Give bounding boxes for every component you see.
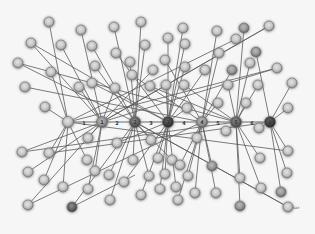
node [57,181,69,193]
node [22,166,34,178]
node [82,183,94,195]
node [211,25,223,37]
link-label: 5 [216,120,220,126]
node [234,172,246,184]
node [109,82,121,94]
node [144,80,156,92]
node [126,69,138,81]
node [181,102,193,114]
node [139,39,151,51]
node [160,79,172,91]
node [206,160,218,172]
node [271,62,283,74]
node [82,132,94,144]
node [89,165,101,177]
node [55,39,67,51]
node [179,38,191,50]
node [75,24,87,36]
node [22,199,34,211]
hub-label: 3 [166,119,170,125]
node [255,182,267,194]
hub-label: 1 [100,119,104,125]
node [254,152,266,164]
node [43,16,55,28]
corner-mark: GAP [293,206,299,210]
node [145,134,157,146]
node [135,189,147,201]
node [162,32,174,44]
node [234,200,246,212]
node [212,97,224,109]
link-label: 6 [250,120,254,126]
node [281,167,293,179]
node [108,21,120,33]
node [154,183,166,195]
hub-node [61,116,74,129]
hub-label: 6 [268,119,272,125]
node [86,40,98,52]
node [135,16,147,28]
node [110,47,122,59]
node [174,159,186,171]
edge [270,122,281,192]
hub-label: 2 [133,119,137,125]
node [213,47,225,59]
node [222,79,234,91]
edge [236,63,250,122]
node [39,101,51,113]
node [19,81,31,93]
node [147,64,159,76]
node [189,187,201,199]
node [143,170,155,182]
node [238,22,250,34]
node [104,194,116,206]
link-label: 2 [115,120,119,126]
node [240,97,252,109]
node [118,176,130,188]
node [81,154,93,166]
node [282,102,294,114]
edge [68,68,277,122]
node [89,60,101,72]
node [86,77,98,89]
node [253,122,265,134]
node [66,201,78,213]
node [127,154,139,166]
node [282,145,294,157]
link-label: 1 [82,120,86,126]
node [12,57,24,69]
node [182,170,194,182]
link-label: 3 [149,120,153,126]
node [178,79,190,91]
node [275,186,287,198]
node [16,146,28,158]
node [252,79,264,91]
network-diagram: 123456 123456 GAP [0,0,315,234]
hub-label: 4 [200,119,204,125]
edge [202,122,216,193]
node [43,147,55,159]
node [159,168,171,180]
node [152,152,164,164]
node [191,132,203,144]
node [177,22,189,34]
node [103,169,115,181]
hub-label: 5 [234,119,238,125]
node [73,81,85,93]
node [111,137,123,149]
node [286,77,298,89]
node [199,64,211,76]
node [230,33,242,45]
node [172,194,184,206]
node [220,125,232,137]
edge [51,72,68,122]
node [170,181,182,193]
link-label: 4 [182,120,186,126]
node [244,57,256,69]
node [38,174,50,186]
node [159,54,171,66]
node [179,61,191,73]
node [263,20,275,32]
node [210,187,222,199]
node [124,56,136,68]
